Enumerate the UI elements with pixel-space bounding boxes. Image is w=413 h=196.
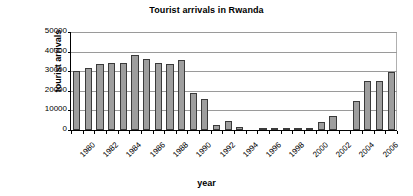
bar xyxy=(294,128,301,130)
x-axis-tick xyxy=(281,131,282,134)
x-axis-tick-label: 1986 xyxy=(148,140,167,159)
y-axis-tick-label: 50000 xyxy=(13,27,67,35)
x-axis-tick xyxy=(187,131,188,134)
bar xyxy=(108,63,115,130)
y-axis-tick-label: 20000 xyxy=(13,86,67,94)
x-axis-tick xyxy=(257,131,258,134)
x-axis-title: year xyxy=(0,178,413,188)
bar xyxy=(283,128,290,130)
plot-area: tourist arrivals 01000020000300004000050… xyxy=(70,32,397,131)
x-axis-tick xyxy=(164,131,165,134)
x-axis-tick xyxy=(327,131,328,134)
x-axis-tick xyxy=(339,131,340,134)
bar xyxy=(73,71,80,130)
x-axis-tick xyxy=(222,131,223,134)
x-axis-tick xyxy=(292,131,293,134)
x-axis-tick-label: 2002 xyxy=(334,140,353,159)
x-axis-tick xyxy=(374,131,375,134)
bar xyxy=(318,122,325,130)
bar xyxy=(155,63,162,130)
bar xyxy=(131,55,138,130)
bar xyxy=(364,81,371,130)
y-axis-tick-label: 10000 xyxy=(13,105,67,113)
bar xyxy=(85,68,92,130)
bar xyxy=(96,64,103,130)
x-axis-tick xyxy=(269,131,270,134)
y-axis-title: tourist arrivals xyxy=(53,6,63,116)
bar xyxy=(306,128,313,130)
x-axis-tick-label: 2004 xyxy=(357,140,376,159)
y-axis-tick-label: 30000 xyxy=(13,66,67,74)
x-axis-tick-label: 1996 xyxy=(264,140,283,159)
bar xyxy=(236,127,243,130)
x-axis-tick-label: 1994 xyxy=(241,140,260,159)
x-axis-tick xyxy=(141,131,142,134)
x-axis-tick xyxy=(153,131,154,134)
x-axis-tick xyxy=(106,131,107,134)
bar xyxy=(225,121,232,130)
x-axis-tick-label: 1984 xyxy=(124,140,143,159)
x-axis-tick-label: 1988 xyxy=(171,140,190,159)
x-axis-tick xyxy=(362,131,363,134)
x-axis-tick-label: 2000 xyxy=(311,140,330,159)
x-axis-tick xyxy=(83,131,84,134)
x-axis-tick xyxy=(199,131,200,134)
x-axis-tick-label: 1992 xyxy=(218,140,237,159)
bar xyxy=(376,81,383,130)
x-axis-tick xyxy=(129,131,130,134)
x-axis-tick xyxy=(71,131,72,134)
y-axis-tick-label: 0 xyxy=(13,125,67,133)
x-axis-tick xyxy=(385,131,386,134)
x-axis-tick xyxy=(350,131,351,134)
x-axis-tick xyxy=(397,131,398,134)
bar xyxy=(190,93,197,130)
bar xyxy=(166,64,173,130)
y-axis-tick-label: 40000 xyxy=(13,47,67,55)
x-axis-tick xyxy=(234,131,235,134)
bar xyxy=(271,128,278,130)
bar xyxy=(388,72,395,130)
bar xyxy=(329,116,336,130)
bars-group xyxy=(71,32,397,130)
bar xyxy=(259,128,266,130)
x-axis-tick-label: 1982 xyxy=(101,140,120,159)
bar xyxy=(143,59,150,130)
bar xyxy=(213,125,220,130)
bar xyxy=(120,63,127,130)
x-axis-tick xyxy=(211,131,212,134)
x-axis-tick xyxy=(94,131,95,134)
x-axis-tick-label: 2006 xyxy=(381,140,400,159)
x-axis-tick xyxy=(118,131,119,134)
x-axis-tick xyxy=(176,131,177,134)
x-axis-tick xyxy=(246,131,247,134)
x-axis-tick-label: 1980 xyxy=(78,140,97,159)
x-axis-tick-label: 1990 xyxy=(194,140,213,159)
chart-container: Tourist arrivals in Rwanda tourist arriv… xyxy=(0,0,413,196)
x-axis-tick-label: 1998 xyxy=(287,140,306,159)
bar xyxy=(353,101,360,130)
x-axis-tick xyxy=(316,131,317,134)
bar xyxy=(201,99,208,130)
bar xyxy=(178,60,185,130)
x-axis-tick xyxy=(304,131,305,134)
